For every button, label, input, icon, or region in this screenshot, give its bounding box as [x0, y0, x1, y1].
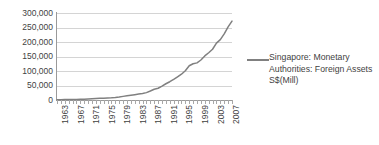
- x-axis-tick: [84, 100, 85, 104]
- x-axis-tick: [150, 100, 151, 104]
- x-axis-tick-label: 1963: [61, 105, 70, 124]
- x-axis-tick: [92, 100, 93, 104]
- x-axis-tick: [80, 100, 81, 104]
- x-axis-tick: [189, 100, 190, 104]
- x-axis-tick: [201, 100, 202, 104]
- x-axis-tick-label: 1983: [139, 105, 148, 124]
- x-axis-tick: [170, 100, 171, 104]
- x-axis-tick: [115, 100, 116, 104]
- x-axis-tick: [76, 100, 77, 104]
- y-axis-tick-label: 250,000: [22, 23, 53, 32]
- x-axis-tick-label: 2003: [217, 105, 226, 124]
- x-axis-tick: [232, 100, 233, 104]
- x-axis-tick: [139, 100, 140, 104]
- x-axis-tick: [154, 100, 155, 104]
- x-axis-tick: [146, 100, 147, 104]
- x-axis-tick: [127, 100, 128, 104]
- x-axis-tick: [96, 100, 97, 104]
- x-axis-tick-label: 2007: [232, 105, 241, 124]
- x-axis-tick: [65, 100, 66, 104]
- x-axis-tick: [143, 100, 144, 104]
- x-axis-tick: [104, 100, 105, 104]
- chart-container: 050,000100,000150,000200,000250,000300,0…: [0, 0, 379, 145]
- x-axis-tick: [224, 100, 225, 104]
- x-axis-tick: [100, 100, 101, 104]
- x-axis-tick: [181, 100, 182, 104]
- x-axis-tick: [108, 100, 109, 104]
- x-axis-tick-label: 1975: [108, 105, 117, 124]
- x-axis-tick: [216, 100, 217, 104]
- x-axis-tick: [220, 100, 221, 104]
- x-axis-tick-label: 1995: [185, 105, 194, 124]
- y-axis-tick-label: 200,000: [22, 38, 53, 47]
- x-axis-tick: [111, 100, 112, 104]
- legend-label: Singapore: Monetary Authorities: Foreign…: [269, 52, 373, 87]
- chart-legend: Singapore: Monetary Authorities: Foreign…: [247, 52, 377, 87]
- y-axis-tick-label: 300,000: [22, 9, 53, 18]
- x-axis-tick-label: 1979: [123, 105, 132, 124]
- y-axis-tick-label: 150,000: [22, 52, 53, 61]
- x-axis-tick: [158, 100, 159, 104]
- x-axis-tick: [135, 100, 136, 104]
- legend-line-marker-icon: [247, 55, 269, 64]
- x-axis-tick: [57, 100, 58, 104]
- x-axis-tick-labels: 1963196719711975197919831987199119951999…: [57, 105, 237, 145]
- x-axis-tick-label: 1991: [170, 105, 179, 124]
- y-axis-tick-labels: 050,000100,000150,000200,000250,000300,0…: [0, 8, 53, 102]
- x-axis-tick-label: 1987: [154, 105, 163, 124]
- series-line-singapore-foreign-assets: [57, 13, 232, 100]
- x-axis-tick: [131, 100, 132, 104]
- x-axis-tick: [73, 100, 74, 104]
- x-axis-tick: [197, 100, 198, 104]
- x-axis-tick-label: 1971: [92, 105, 101, 124]
- x-axis-tick: [213, 100, 214, 104]
- plot-area: [57, 13, 232, 100]
- x-axis-tick: [61, 100, 62, 104]
- y-axis-tick-label: 100,000: [22, 67, 53, 76]
- x-axis-tick: [205, 100, 206, 104]
- x-axis-tick: [166, 100, 167, 104]
- x-axis-tick: [123, 100, 124, 104]
- x-axis-tick: [193, 100, 194, 104]
- x-axis-tick: [69, 100, 70, 104]
- x-axis-tick: [174, 100, 175, 104]
- x-axis-tick: [228, 100, 229, 104]
- x-axis-tick: [178, 100, 179, 104]
- x-axis-tick-label: 1999: [201, 105, 210, 124]
- x-axis-tick: [162, 100, 163, 104]
- y-axis-tick-label: 0: [48, 96, 53, 105]
- x-axis-tick: [185, 100, 186, 104]
- y-axis-tick-label: 50,000: [27, 81, 53, 90]
- x-axis-tick-label: 1967: [77, 105, 86, 124]
- x-axis-tick: [88, 100, 89, 104]
- x-axis-tick: [119, 100, 120, 104]
- x-axis-tick: [209, 100, 210, 104]
